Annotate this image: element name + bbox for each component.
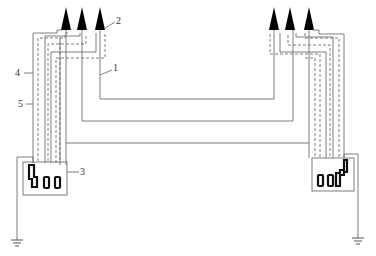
- label-2: 2: [116, 16, 121, 26]
- right-ground-icon: [352, 238, 364, 244]
- conductor-middle: [82, 30, 293, 121]
- left-terminals: [29, 165, 60, 188]
- left-shield-solid-2: [45, 33, 80, 163]
- label-4: 4: [15, 68, 20, 78]
- conductor-outer: [66, 30, 309, 143]
- right-arrow-group: [269, 7, 314, 30]
- right-terminals: [318, 160, 347, 186]
- conductor-inner: [100, 30, 274, 99]
- leader-2: [105, 22, 115, 28]
- label-3: 3: [80, 167, 85, 177]
- left-arrow-group: [61, 7, 105, 30]
- left-ground-lead: [17, 157, 33, 240]
- label-1: 1: [113, 63, 118, 73]
- arrow-icon: [269, 7, 279, 30]
- arrow-icon: [77, 7, 87, 30]
- arrow-icon: [304, 7, 314, 30]
- leader-1: [100, 70, 112, 75]
- arrow-icon: [285, 7, 295, 30]
- wiring-diagram: [0, 0, 376, 256]
- left-shield-solid-3: [51, 33, 96, 163]
- left-ground-icon: [11, 240, 23, 246]
- right-shield-solid-3: [280, 33, 326, 158]
- arrow-icon: [95, 7, 105, 30]
- label-5: 5: [18, 99, 23, 109]
- arrow-icon: [61, 7, 71, 30]
- left-shield-solid: [33, 30, 62, 163]
